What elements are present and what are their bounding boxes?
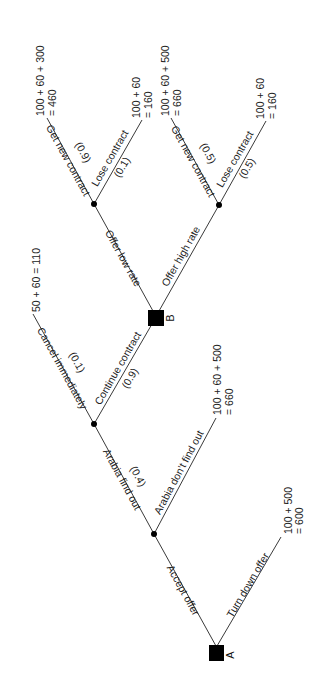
payoff-cancel-line1: 50 + 60 = 110 [30,248,42,312]
payoff-low-lose-line2: = 160 [142,91,154,118]
decision-node-b [148,310,164,326]
payoff-high-lose-line2: = 160 [266,92,278,119]
label-offer-low-rate: Offer low rate [103,228,144,289]
label-accept-offer: Accept offer [165,563,203,618]
payoff-dont-find-out-line1: 100 + 60 + 500 [211,344,223,415]
payoff-high-lose-line1: 100 + 60 [254,78,266,119]
label-offer-high-rate: Offer high rate [159,224,202,288]
node-b-label: B [164,314,176,321]
payoff-high-get-line1: 100 + 60 + 500 [159,45,171,116]
payoff-low-get-line2: = 460 [46,89,58,116]
edge-arabia-dont-find-out [154,418,216,534]
chance-node-4 [216,202,222,208]
chance-node-3 [91,201,97,207]
node-a-label: A [224,651,236,659]
decision-tree: A B Accept offer Turn down offer Arabia … [0,0,313,675]
payoff-low-get-line1: 100 + 60 + 300 [34,45,46,116]
edge-continue-contract [94,324,152,424]
payoff-low-lose-line1: 100 + 60 [130,77,142,118]
payoff-high-get-line2: = 660 [171,89,183,116]
payoff-dont-find-out-line2: = 660 [223,388,235,415]
payoff-turn-down-line2: = 600 [293,507,305,534]
chance-node-1 [151,531,157,537]
label-arabia-dont-find-out: Arabia don’t find out [151,428,206,516]
edge-offer-high-rate [159,205,219,311]
label-continue-contract: Continue contract [92,329,144,406]
label-turn-down-offer: Turn down offer [224,550,272,619]
chance-node-2 [91,421,97,427]
decision-node-a [209,645,224,661]
